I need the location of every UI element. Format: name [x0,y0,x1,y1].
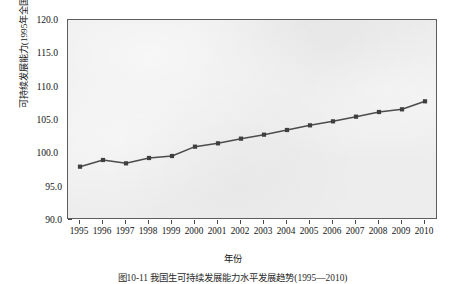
data-point-2003 [262,133,266,137]
y-tick-label-95: 95.0 [22,181,62,192]
data-point-1995 [78,165,82,169]
data-point-2000 [193,145,197,149]
x-tick-mark-2005 [309,220,310,224]
y-tick-label-90: 90.0 [22,214,62,225]
x-tick-mark-1997 [125,220,126,224]
y-tick-label-120: 120.0 [18,14,58,25]
x-tick-mark-1995 [79,220,80,224]
series-line-chart [68,20,437,219]
series-markers [78,99,427,169]
x-tick-mark-1999 [171,220,172,224]
data-point-1998 [147,156,151,160]
data-point-1999 [170,154,174,158]
x-tick-mark-2002 [240,220,241,224]
x-tick-mark-2010 [424,220,425,224]
y-tick-mark-90 [68,219,72,220]
figure-caption: 图10-11 我国生可持续发展能力水平发展趋势(1995—2010) [0,270,465,284]
series-polyline [80,101,425,166]
x-tick-mark-1996 [102,220,103,224]
x-tick-mark-2001 [217,220,218,224]
plot-area [67,19,437,219]
x-axis-title: 年份 [0,251,465,265]
data-point-2002 [239,137,243,141]
x-tick-mark-2009 [401,220,402,224]
data-point-1996 [101,158,105,162]
y-tick-label-105: 105.0 [18,114,58,125]
x-tick-mark-2006 [332,220,333,224]
y-tick-label-100: 100.0 [18,147,58,158]
data-point-2010 [423,99,427,103]
data-point-1997 [124,161,128,165]
data-point-2006 [331,119,335,123]
x-tick-mark-2003 [263,220,264,224]
y-tick-label-110: 110.0 [18,81,58,92]
data-point-2007 [354,115,358,119]
x-tick-mark-2004 [286,220,287,224]
data-point-2005 [308,123,312,127]
data-point-2004 [285,128,289,132]
data-point-2008 [377,110,381,114]
x-tick-mark-1998 [148,220,149,224]
x-tick-mark-2008 [378,220,379,224]
x-tick-mark-2000 [194,220,195,224]
x-tick-mark-2007 [355,220,356,224]
data-point-2001 [216,141,220,145]
data-point-2009 [400,107,404,111]
y-tick-label-115: 115.0 [18,47,58,58]
x-tick-label-2010: 2010 [407,226,441,236]
